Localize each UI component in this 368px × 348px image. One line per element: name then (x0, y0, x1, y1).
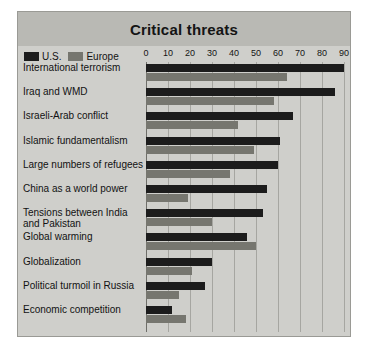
tick-label: 30 (207, 48, 217, 58)
bar-us (146, 306, 172, 314)
bar-us (146, 233, 247, 241)
tick-label: 90 (339, 48, 349, 58)
category-label: Islamic fundamentalism (23, 135, 145, 146)
bar-us (146, 258, 212, 266)
bar-us (146, 282, 205, 290)
bar-europe (146, 315, 186, 323)
bar-group (146, 233, 344, 251)
bar-europe (146, 218, 212, 226)
chart-container: Critical threats U.S.Europe Internationa… (17, 11, 351, 337)
tick-label: 20 (185, 48, 195, 58)
bar-group (146, 282, 344, 300)
title-band: Critical threats (18, 12, 350, 46)
category-label: Israeli-Arab conflict (23, 110, 145, 121)
legend-swatch-icon (68, 52, 83, 61)
bars-layer (146, 62, 344, 332)
category-label: Iraq and WMD (23, 86, 145, 97)
bar-us (146, 137, 280, 145)
bar-us (146, 112, 293, 120)
category-label: Globalization (23, 256, 145, 267)
legend-label: Europe (86, 51, 118, 62)
bar-us (146, 64, 344, 72)
category-label: Tensions between India and Pakistan (23, 207, 145, 229)
tick-label: 70 (295, 48, 305, 58)
category-label: International terrorism (23, 62, 145, 73)
bar-group (146, 88, 344, 106)
value-axis-ticks: 0102030405060708090 (146, 48, 344, 62)
page-title: Critical threats (130, 21, 238, 38)
bar-europe (146, 291, 179, 299)
tick-label: 0 (143, 48, 148, 58)
legend-label: U.S. (42, 51, 61, 62)
tick-label: 10 (163, 48, 173, 58)
bar-group (146, 137, 344, 155)
bar-europe (146, 97, 274, 105)
tick-label: 60 (273, 48, 283, 58)
bar-europe (146, 170, 230, 178)
category-label: China as a world power (23, 183, 145, 194)
tick-label: 80 (317, 48, 327, 58)
bar-europe (146, 73, 287, 81)
category-label: Economic competition (23, 304, 145, 315)
bar-europe (146, 146, 254, 154)
legend-swatch-icon (24, 52, 39, 61)
tick-label: 40 (229, 48, 239, 58)
bar-us (146, 185, 267, 193)
category-label: Global warming (23, 231, 145, 242)
bar-europe (146, 194, 188, 202)
bar-us (146, 88, 335, 96)
category-label: Large numbers of refugees (23, 159, 145, 170)
bar-group (146, 161, 344, 179)
bar-group (146, 209, 344, 227)
legend-item-europe: Europe (68, 51, 118, 62)
bar-us (146, 209, 263, 217)
legend-item-us: U.S. (24, 51, 61, 62)
category-label: Political turmoil in Russia (23, 280, 145, 291)
bar-europe (146, 121, 238, 129)
bar-group (146, 258, 344, 276)
plot-area: 0102030405060708090 (146, 48, 344, 332)
bar-group (146, 112, 344, 130)
bar-group (146, 306, 344, 324)
bar-europe (146, 242, 256, 250)
gridline (344, 62, 345, 332)
bar-us (146, 161, 278, 169)
tick-label: 50 (251, 48, 261, 58)
bar-group (146, 185, 344, 203)
bar-europe (146, 267, 192, 275)
bar-group (146, 64, 344, 82)
